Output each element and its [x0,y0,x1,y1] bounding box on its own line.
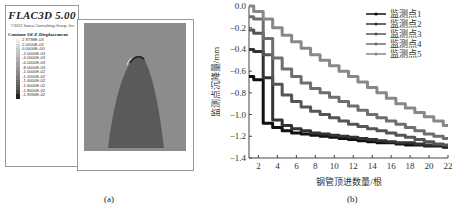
svg-text:8: 8 [313,161,318,171]
svg-text:−0.8: −0.8 [230,88,247,98]
svg-text:2: 2 [256,161,261,171]
svg-text:−1.2: −1.2 [230,131,246,141]
svg-text:−1.0: −1.0 [230,110,247,120]
caption-b: (b) [347,194,358,204]
svg-text:监测点5: 监测点5 [390,48,422,59]
flac-model-view [77,19,194,171]
flac-legend-panel: FLAC3D 5.00 ©2012 Itasca Consulting Grou… [5,5,79,167]
svg-text:−0.4: −0.4 [230,44,247,54]
flac-copyright: ©2012 Itasca Consulting Group, Inc. [8,23,78,28]
settlement-chart: 0.0−0.2−0.4−0.6−0.8−1.0−1.2−1.4246810121… [200,0,459,190]
svg-text:−0.2: −0.2 [230,23,246,33]
svg-text:监测点3: 监测点3 [390,28,422,39]
contour-values: 2.9798E-032.0000E-030.0000E+00-2.0000E-0… [22,38,45,98]
svg-text:14: 14 [368,161,378,171]
svg-text:12: 12 [349,161,358,171]
svg-text:10: 10 [330,161,340,171]
svg-text:0.0: 0.0 [235,1,247,11]
svg-text:16: 16 [387,161,397,171]
svg-text:18: 18 [406,161,416,171]
svg-text:6: 6 [294,161,299,171]
svg-text:4: 4 [275,161,280,171]
svg-text:22: 22 [444,161,453,171]
settlement-zone [84,23,186,151]
svg-text:监测点1: 监测点1 [390,8,422,19]
svg-text:−0.6: −0.6 [230,66,247,76]
chart-svg: 0.0−0.2−0.4−0.6−0.8−1.0−1.2−1.4246810121… [200,0,459,190]
caption-a: (a) [104,194,114,204]
contour-colorbar [16,39,20,99]
svg-text:−1.4: −1.4 [230,153,247,163]
svg-text:监测点2: 监测点2 [390,18,422,29]
svg-text:监测点4: 监测点4 [390,38,422,49]
flac-title: FLAC3D 5.00 [6,9,78,21]
svg-text:钢管顶进数量/根: 钢管顶进数量/根 [316,176,382,187]
svg-text:20: 20 [425,161,435,171]
svg-text:监测点沉降量/mm: 监测点沉降量/mm [210,47,221,118]
model-background [84,23,186,151]
